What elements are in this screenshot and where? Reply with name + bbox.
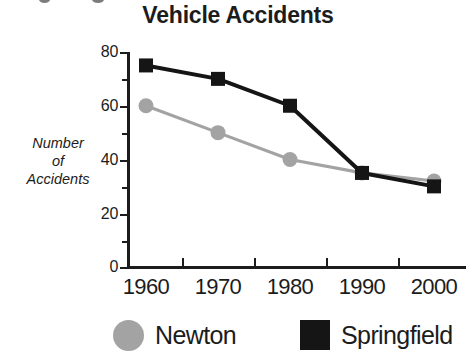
legend-circle-icon (113, 320, 144, 351)
y-tick-70 (122, 79, 128, 81)
y-tick-60 (120, 106, 128, 108)
data-point-newton-1990 (355, 165, 370, 180)
data-point-newton-2000 (427, 174, 442, 189)
y-axis-title-line-3: Accidents (6, 170, 110, 188)
x-tick-3 (326, 258, 328, 267)
y-tick-20 (120, 214, 128, 216)
x-tick-1 (182, 258, 184, 267)
x-tick-2 (254, 258, 256, 267)
data-point-springfield-1990 (355, 166, 369, 180)
y-tick-40 (120, 160, 128, 162)
legend-item-springfield[interactable]: Springfield (300, 320, 453, 350)
legend-item-newton[interactable]: Newton (113, 320, 236, 351)
x-tick-label-1980: 1980 (258, 274, 322, 300)
legend-square-icon (300, 320, 330, 350)
y-tick-label-60: 60 (84, 97, 118, 115)
y-tick-label-20: 20 (84, 205, 118, 223)
x-tick-label-1990: 1990 (330, 274, 394, 300)
data-point-springfield-2000 (427, 179, 441, 193)
data-point-newton-1980 (283, 152, 298, 167)
legend-label-springfield: Springfield (341, 321, 453, 350)
data-point-newton-1960 (139, 98, 154, 113)
y-tick-10 (122, 241, 128, 243)
y-tick-label-0: 0 (84, 258, 118, 276)
series-line-springfield (146, 65, 434, 186)
x-tick-label-2000: 2000 (402, 274, 466, 300)
data-point-springfield-1970 (211, 72, 225, 86)
data-point-springfield-1980 (283, 99, 297, 113)
data-point-newton-1970 (211, 125, 226, 140)
chart-legend: Newton Springfield (0, 318, 476, 363)
y-tick-30 (122, 187, 128, 189)
y-tick-80 (120, 52, 128, 54)
y-tick-50 (122, 133, 128, 135)
x-axis-line (127, 266, 466, 269)
data-point-springfield-1960 (139, 58, 153, 72)
y-tick-0 (120, 267, 128, 269)
series-line-newton (146, 106, 434, 181)
y-tick-label-40: 40 (84, 151, 118, 169)
x-tick-label-1960: 1960 (114, 274, 178, 300)
y-axis-title-line-1: Number (6, 134, 110, 152)
y-tick-label-80: 80 (84, 43, 118, 61)
chart-title: Vehicle Accidents (0, 2, 476, 29)
x-tick-label-1970: 1970 (186, 274, 250, 300)
chart-page: Vehicle Accidents Number of Accidents 80… (0, 0, 476, 363)
legend-label-newton: Newton (155, 321, 236, 350)
x-tick-4 (398, 258, 400, 267)
